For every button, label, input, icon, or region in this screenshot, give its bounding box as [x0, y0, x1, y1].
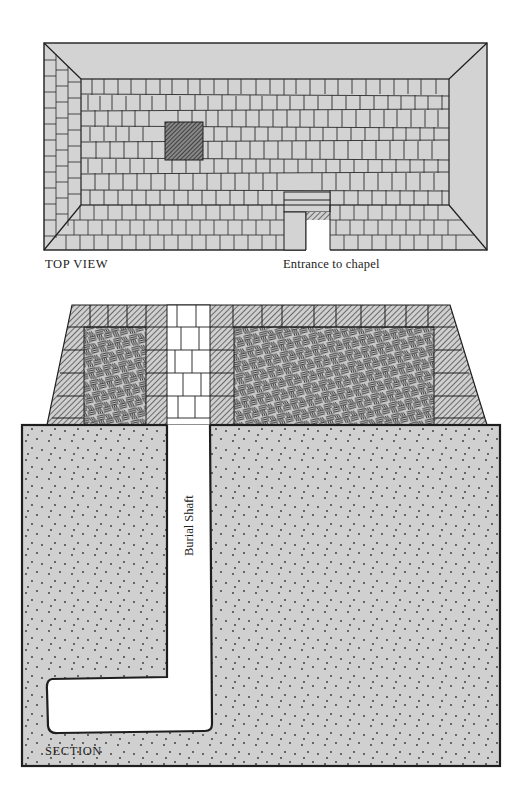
section-label: SECTION	[45, 744, 102, 759]
chapel-entrance	[284, 192, 330, 251]
section-view	[22, 305, 500, 766]
mastaba-diagram	[0, 0, 522, 799]
shaft-opening	[165, 122, 203, 160]
top-view-label: TOP VIEW	[45, 257, 108, 272]
rubble-fill-left	[84, 327, 146, 425]
entrance-to-chapel-label: Entrance to chapel	[283, 257, 380, 272]
shaft-masonry	[167, 305, 210, 425]
burial-shaft-label: Burial Shaft	[182, 495, 197, 556]
rubble-fill-right	[234, 327, 434, 425]
top-view	[44, 43, 487, 251]
